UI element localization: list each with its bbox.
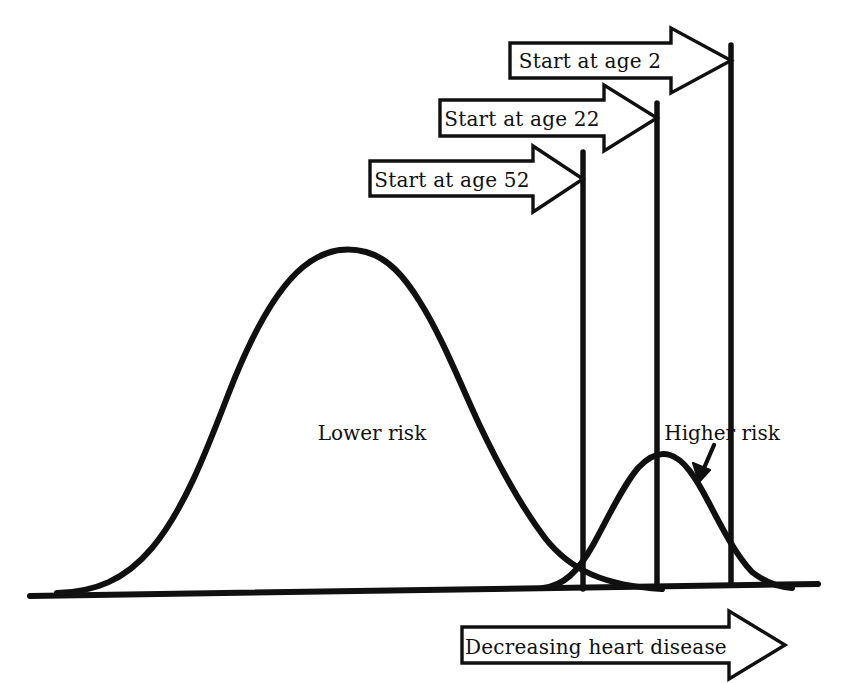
start-at-age-52-arrow-label: Start at age 52 (374, 168, 529, 192)
lower-risk-label: Lower risk (318, 421, 427, 445)
risk-distribution-figure: Start at age 2 Start at age 22 Start at … (0, 0, 843, 683)
start-at-age-22-arrow-label: Start at age 22 (444, 107, 599, 131)
higher-risk-label: Higher risk (664, 421, 780, 445)
start-at-age-22-arrow: Start at age 22 (440, 85, 657, 151)
start-at-age-52-arrow: Start at age 52 (370, 146, 583, 212)
higher-risk-pointer-arrow-icon (693, 445, 714, 482)
axis-baseline (30, 584, 818, 596)
decreasing-heart-disease-arrow-label: Decreasing heart disease (465, 635, 727, 659)
figure-canvas: Start at age 2 Start at age 22 Start at … (0, 0, 843, 683)
start-at-age-2-arrow-label: Start at age 2 (519, 49, 661, 73)
start-at-age-2-arrow: Start at age 2 (510, 28, 731, 93)
decreasing-heart-disease-arrow: Decreasing heart disease (462, 611, 785, 679)
